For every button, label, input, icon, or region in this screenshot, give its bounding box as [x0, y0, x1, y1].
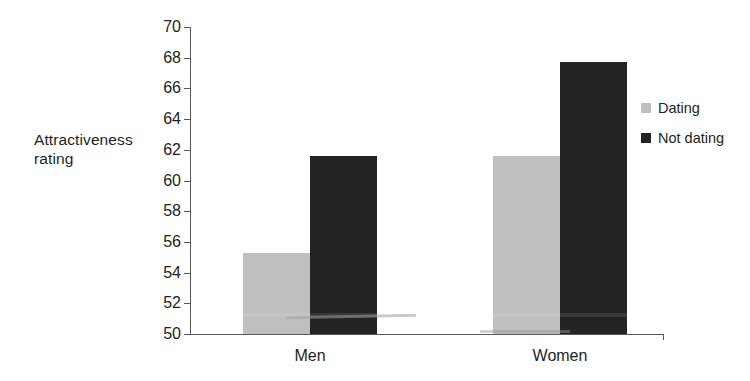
- y-tick-label: 66: [163, 80, 181, 96]
- bar-men-not-dating: [310, 156, 377, 334]
- y-tick-label: 54: [163, 265, 181, 281]
- legend-swatch-dating-icon: [641, 103, 651, 113]
- y-tick-mark: [184, 181, 190, 182]
- y-tick-label: 64: [163, 111, 181, 127]
- y-tick-mark: [184, 242, 190, 243]
- y-tick-label: 70: [163, 19, 181, 35]
- legend-label-dating: Dating: [658, 101, 700, 116]
- y-tick-mark: [184, 303, 190, 304]
- plot-area: 5052545658606264666870: [190, 27, 664, 334]
- y-tick-mark: [184, 211, 190, 212]
- x-axis-label-men: Men: [294, 348, 325, 364]
- legend-swatch-not-dating-icon: [641, 133, 651, 143]
- y-tick-mark: [184, 150, 190, 151]
- legend: Dating Not dating: [641, 101, 724, 160]
- bar-women-dating: [493, 156, 560, 334]
- legend-item-dating: Dating: [641, 101, 724, 116]
- bar-men-dating: [243, 253, 310, 334]
- x-axis-line: [190, 334, 664, 335]
- y-tick-label: 50: [163, 326, 181, 342]
- y-axis-title-line-1: Attractiveness: [34, 130, 184, 149]
- y-tick-label: 62: [163, 142, 181, 158]
- y-tick-mark: [184, 119, 190, 120]
- legend-item-not-dating: Not dating: [641, 131, 724, 146]
- y-tick-mark: [184, 334, 190, 335]
- y-tick-label: 68: [163, 50, 181, 66]
- y-tick-label: 52: [163, 295, 181, 311]
- y-tick-mark: [184, 273, 190, 274]
- y-tick-label: 56: [163, 234, 181, 250]
- legend-label-not-dating: Not dating: [658, 131, 724, 146]
- bar-chart: Attractiveness rating 505254565860626466…: [0, 0, 750, 381]
- x-axis-label-women: Women: [533, 348, 588, 364]
- y-axis-title: Attractiveness rating: [34, 130, 184, 168]
- x-axis-end-tick: [663, 334, 664, 340]
- y-axis-line: [190, 27, 191, 334]
- y-tick-mark: [184, 58, 190, 59]
- y-tick-label: 60: [163, 173, 181, 189]
- bar-women-not-dating: [560, 62, 627, 334]
- y-tick-label: 58: [163, 203, 181, 219]
- y-axis-title-line-2: rating: [34, 149, 184, 168]
- y-tick-mark: [184, 88, 190, 89]
- y-tick-mark: [184, 27, 190, 28]
